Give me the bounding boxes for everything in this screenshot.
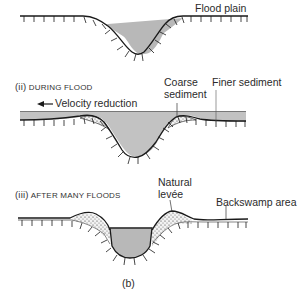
levee-leader: [170, 200, 172, 212]
finer-sediment-label: Finer sediment: [212, 77, 281, 88]
velocity-reduction-label: Velocity reduction: [55, 98, 137, 109]
natural-levee-label-1: Natural: [158, 177, 192, 188]
panel-2-number: (ii): [15, 81, 26, 92]
flood-plain-diagram: [0, 0, 303, 300]
coarse-sediment-label-2: sediment: [164, 89, 207, 100]
figure-caption: (b): [122, 278, 135, 289]
coarse-sediment-label-1: Coarse: [164, 77, 198, 88]
natural-levee-label-2: levée: [158, 189, 183, 200]
panel-3-title: AFTER MANY FLOODS: [31, 191, 121, 200]
panel-1-channel: [20, 16, 248, 61]
panel-3-caption: (iii) AFTER MANY FLOODS: [15, 189, 121, 200]
panel-3-number: (iii): [15, 189, 29, 200]
panel-3-after-floods: [18, 200, 248, 265]
panel-2-title: DURING FLOOD: [29, 83, 93, 92]
arrow-left-icon: [37, 101, 53, 107]
flood-plain-label: Flood plain: [195, 3, 246, 14]
panel-2-caption: (ii) DURING FLOOD: [15, 81, 93, 92]
backswamp-label: Backswamp area: [216, 197, 297, 208]
